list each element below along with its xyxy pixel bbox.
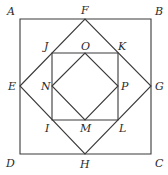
label-j: J [42, 40, 49, 53]
label-b: B [154, 5, 163, 18]
label-a: A [6, 5, 15, 18]
label-d: D [5, 157, 15, 170]
label-p: P [120, 80, 129, 93]
label-c: C [155, 157, 164, 170]
label-i: I [44, 122, 50, 135]
inner-square-jkli [52, 53, 118, 120]
label-l: L [118, 122, 126, 135]
label-e: E [7, 80, 16, 93]
inner-diamond-nopm [52, 53, 118, 120]
label-k: K [117, 40, 127, 53]
label-g: G [155, 80, 164, 93]
label-n: N [40, 80, 51, 93]
label-f: F [80, 4, 89, 17]
label-m: M [79, 122, 92, 135]
geometry-diagram: A B C D E F G H J O K N P I M L [0, 0, 168, 175]
label-o: O [81, 40, 90, 53]
label-h: H [79, 158, 90, 171]
